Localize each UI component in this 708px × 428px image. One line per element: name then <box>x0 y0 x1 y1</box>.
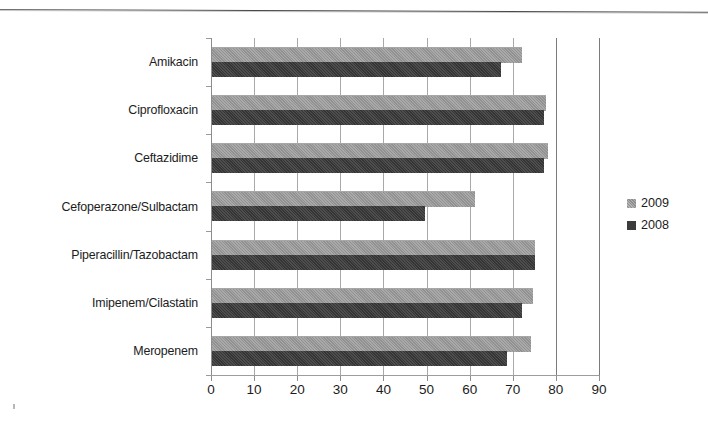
bar-2009 <box>212 288 533 304</box>
x-axis-tick-labels: 0102030405060708090 <box>211 382 611 404</box>
bar-group <box>212 327 600 375</box>
scan-speck <box>13 404 15 409</box>
category-axis-labels: AmikacinCiprofloxacinCeftazidimeCefopera… <box>8 38 206 375</box>
plot-area <box>211 38 599 375</box>
x-tick-label-90: 90 <box>579 382 619 398</box>
bar-group <box>212 134 600 182</box>
bar-2009 <box>212 191 475 207</box>
bar-group <box>212 231 600 279</box>
category-label: Imipenem/Cilastatin <box>8 296 198 310</box>
category-label: Cefoperazone/Sulbactam <box>8 200 198 214</box>
category-label: Ceftazidime <box>8 151 198 165</box>
bar-group <box>212 38 600 86</box>
y-axis-line <box>211 38 212 376</box>
legend-label: 2008 <box>641 218 669 232</box>
x-tick-label-60: 60 <box>450 382 490 398</box>
bar-2009 <box>212 240 535 256</box>
legend-label: 2009 <box>641 196 669 210</box>
bar-2008 <box>212 303 522 318</box>
legend-swatch-icon <box>627 221 636 230</box>
page-rule-divider <box>0 9 708 13</box>
x-axis-line <box>211 375 599 376</box>
category-label: Meropenem <box>8 344 198 358</box>
bar-group <box>212 279 600 327</box>
x-tick-label-70: 70 <box>493 382 533 398</box>
chart-legend: 20092008 <box>627 192 701 236</box>
bar-2008 <box>212 255 535 270</box>
legend-swatch-icon <box>627 199 636 208</box>
bar-2009 <box>212 143 548 159</box>
bar-group <box>212 182 600 230</box>
bar-2009 <box>212 47 522 63</box>
category-label: Ciprofloxacin <box>8 103 198 117</box>
legend-item-2008: 2008 <box>627 214 701 236</box>
x-tick-label-80: 80 <box>536 382 576 398</box>
bar-2009 <box>212 95 546 111</box>
category-label: Piperacillin/Tazobactam <box>8 248 198 262</box>
bar-2008 <box>212 62 501 77</box>
x-tick-label-0: 0 <box>191 382 231 398</box>
x-tick-90 <box>599 375 600 381</box>
x-tick-label-20: 20 <box>277 382 317 398</box>
x-tick-label-30: 30 <box>320 382 360 398</box>
x-tick-label-50: 50 <box>407 382 447 398</box>
x-tick-label-10: 10 <box>234 382 274 398</box>
bar-2008 <box>212 110 544 125</box>
category-label: Amikacin <box>8 55 198 69</box>
bar-chart-figure: AmikacinCiprofloxacinCeftazidimeCefopera… <box>0 0 708 428</box>
legend-item-2009: 2009 <box>627 192 701 214</box>
bar-group <box>212 86 600 134</box>
bar-2008 <box>212 351 507 366</box>
x-tick-label-40: 40 <box>363 382 403 398</box>
bar-2008 <box>212 158 544 173</box>
bar-2008 <box>212 206 425 221</box>
bar-2009 <box>212 336 531 352</box>
